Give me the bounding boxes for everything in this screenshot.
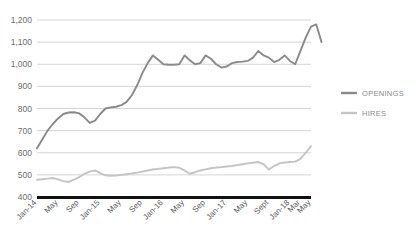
y-axis-tick-label: 900 [18,81,32,91]
x-axis-tick-label: May [169,198,186,215]
x-axis-tick-label: Sep [191,198,208,215]
chart-title-clipped [0,0,419,8]
x-axis-tick-label: Jan-15 [78,198,102,222]
x-axis-tick-label: Jan-17 [204,198,228,222]
x-axis-tick-label: Sep [64,198,81,215]
series-line-hires [37,146,311,182]
data-series-group [37,24,322,182]
x-axis-tick-label: May [106,198,123,215]
line-chart-plot: 4005006007008009001,0001,1001,200 Jan-14… [0,0,419,239]
x-axis-tick-label: Sep [127,198,144,215]
legend: OPENINGSHIRES [341,89,404,118]
y-axis-tick-label: 1,100 [11,37,33,47]
legend-label-openings: OPENINGS [362,89,404,98]
chart-container: 4005006007008009001,0001,1001,200 Jan-14… [0,0,419,239]
legend-label-hires: HIRES [362,109,386,118]
x-axis-tick-label: May [232,198,249,215]
gridlines-group [37,20,311,175]
x-axis-tick-label: May [42,198,59,215]
x-axis-labels-group: Jan-14MaySepJan-15MaySepJan-16MaySepJan-… [15,198,313,222]
y-axis-tick-label: 700 [18,126,32,136]
y-axis-tick-label: 1,000 [11,59,33,69]
x-axis-tick-label: Sept [252,198,271,217]
y-axis-tick-label: 1,200 [11,15,33,25]
y-axis-tick-label: 600 [18,148,32,158]
y-axis-tick-label: 800 [18,104,32,114]
x-axis-tick-label: Jan-16 [141,198,165,222]
y-axis-labels-group: 4005006007008009001,0001,1001,200 [11,15,33,202]
y-axis-tick-label: 500 [18,170,32,180]
